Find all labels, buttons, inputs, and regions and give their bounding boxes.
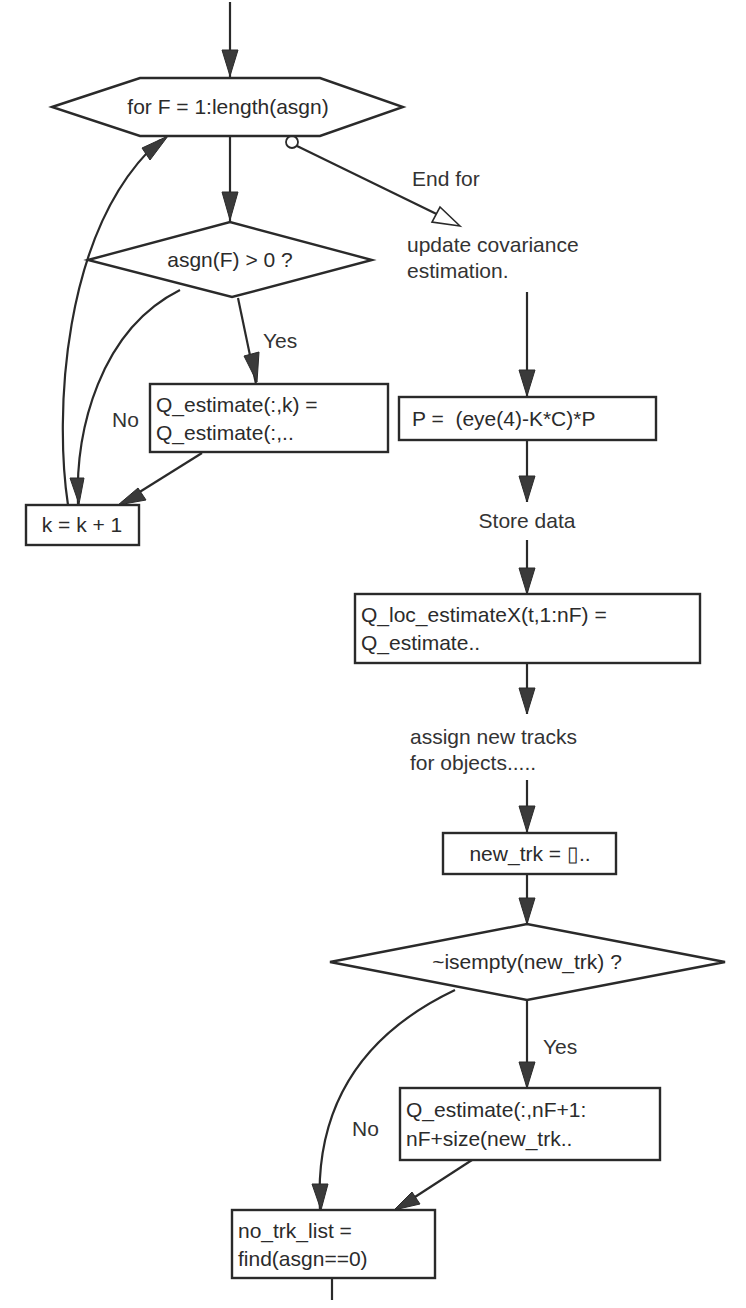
q-loc-line1: Q_loc_estimateX(t,1:nF) =: [361, 603, 607, 627]
arrowhead-icon: [222, 192, 238, 220]
q-estimate-nf-line1: Q_estimate(:,nF+1:: [406, 1098, 586, 1122]
assign-tracks-line1: assign new tracks: [410, 725, 577, 748]
arrowhead-icon: [519, 688, 535, 714]
arrowhead-icon: [519, 370, 535, 396]
arrowhead-icon: [519, 568, 535, 594]
k-increment-text: k = k + 1: [42, 513, 123, 536]
arrowhead-icon: [519, 806, 535, 832]
node-p-update[interactable]: P = (eye(4)-K*C)*P: [399, 397, 656, 440]
q-loc-line2: Q_estimate..: [361, 631, 480, 655]
yes-label-2: Yes: [543, 1035, 577, 1058]
assign-tracks-line2: for objects.....: [410, 751, 536, 774]
arrowhead-icon: [222, 50, 238, 76]
p-update-text: P = (eye(4)-K*C)*P: [412, 407, 595, 430]
node-cond-asgn[interactable]: asgn(F) > 0 ?: [88, 222, 372, 297]
arrowhead-icon: [394, 1192, 420, 1210]
q-estimate-k-line2: Q_estimate(:,..: [156, 421, 294, 445]
node-cond-empty[interactable]: ~isempty(new_trk) ?: [330, 924, 725, 1000]
no-trk-list-line2: find(asgn==0): [238, 1247, 368, 1270]
new-trk-text: new_trk = ▯..: [469, 842, 590, 866]
end-for-label: End for: [412, 167, 480, 190]
node-q-estimate-nf[interactable]: Q_estimate(:,nF+1: nF+size(new_trk..: [400, 1088, 660, 1160]
arrowhead-icon: [519, 898, 535, 924]
q-estimate-k-line1: Q_estimate(:,k) =: [156, 393, 318, 417]
node-for-loop[interactable]: for F = 1:length(asgn): [52, 78, 403, 136]
update-cov-line1: update covariance: [407, 233, 579, 256]
node-q-estimate-k[interactable]: Q_estimate(:,k) = Q_estimate(:,..: [150, 384, 388, 452]
cond-asgn-text: asgn(F) > 0 ?: [167, 248, 292, 271]
q-estimate-nf-line2: nF+size(new_trk..: [406, 1127, 572, 1151]
node-k-increment[interactable]: k = k + 1: [26, 505, 139, 545]
no-trk-list-line1: no_trk_list =: [238, 1219, 352, 1243]
flowchart-canvas: for F = 1:length(asgn) asgn(F) > 0 ? Q_e…: [0, 0, 746, 1308]
open-arrowhead-icon: [432, 207, 460, 226]
arrowhead-icon: [519, 476, 535, 502]
edge-loop-back: [63, 140, 160, 505]
node-q-loc[interactable]: Q_loc_estimateX(t,1:nF) = Q_estimate..: [355, 594, 700, 663]
loop-exit-circle-icon: [286, 136, 298, 148]
arrowhead-icon: [312, 1184, 328, 1210]
cond-empty-text: ~isempty(new_trk) ?: [432, 950, 622, 974]
no-label-2: No: [352, 1117, 379, 1140]
store-data-text: Store data: [479, 509, 576, 532]
node-no-trk-list[interactable]: no_trk_list = find(asgn==0): [232, 1210, 435, 1278]
arrowhead-icon: [244, 352, 259, 382]
yes-label-1: Yes: [263, 329, 297, 352]
node-assign-tracks: assign new tracks for objects.....: [410, 725, 577, 774]
node-update-cov: update covariance estimation.: [407, 233, 579, 282]
arrowhead-icon: [519, 1062, 535, 1088]
for-loop-text: for F = 1:length(asgn): [127, 95, 328, 118]
no-label-1: No: [112, 408, 139, 431]
node-store-data: Store data: [479, 509, 576, 532]
update-cov-line2: estimation.: [407, 259, 509, 282]
node-new-trk[interactable]: new_trk = ▯..: [443, 833, 616, 874]
arrowhead-icon: [142, 136, 168, 160]
